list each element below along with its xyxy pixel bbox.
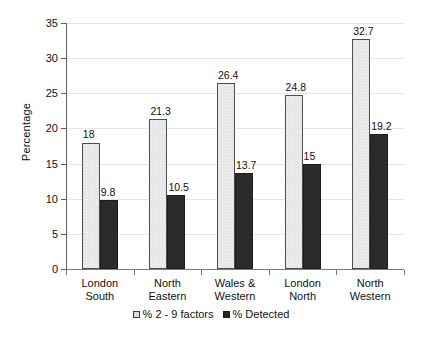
bar-value-label: 24.8 [286,82,306,93]
bar-value-label: 19.2 [371,121,391,132]
y-axis-tick-label: 15 [46,158,58,169]
plot-area: 05101520253035 189.821.310.526.413.724.8… [66,23,404,269]
x-axis-tick-mark [404,270,405,275]
bar [167,195,185,269]
y-axis-tick-mark [61,128,66,129]
bar-value-label: 32.7 [353,26,373,37]
bar-value-label: 26.4 [218,70,238,81]
y-axis-tick-mark [61,164,66,165]
bar-value-label: 13.7 [236,160,256,171]
y-axis-title: Percentage [20,62,32,202]
y-axis-tick-label: 5 [52,228,58,239]
x-axis-category-label: NorthEastern [134,277,202,303]
gridline [67,23,404,24]
x-axis-tick-mark [269,270,270,275]
x-axis-category-label: LondonSouth [66,277,134,303]
y-axis-tick-label: 10 [46,193,58,204]
bar-chart: Percentage 05101520253035 189.821.310.52… [0,0,422,340]
legend-label: % 2 - 9 factors [143,308,214,320]
category-label-line: Western [336,290,404,303]
bar [303,164,321,269]
x-axis-tick-mark [66,270,67,275]
category-label-line: North [134,277,202,290]
bar [100,200,118,269]
category-label-line: North [336,277,404,290]
category-label-line: Wales & [201,277,269,290]
bar [370,134,388,269]
category-label-line: North [269,290,337,303]
y-axis-tick-mark [61,199,66,200]
bar [235,173,253,269]
bar [352,39,370,269]
x-axis-category-label: LondonNorth [269,277,337,303]
y-axis-tick-label: 25 [46,88,58,99]
legend-entry: % 2 - 9 factors [133,308,214,320]
y-axis-tick-label: 20 [46,123,58,134]
y-axis-tick-label: 35 [46,18,58,29]
category-label-line: Eastern [134,290,202,303]
bar-value-label: 15 [304,151,316,162]
y-axis-line [66,23,67,269]
legend-swatch-light [133,311,140,318]
chart-legend: % 2 - 9 factors% Detected [0,308,422,320]
bar-value-label: 9.8 [101,187,116,198]
legend-entry: % Detected [223,308,290,320]
y-axis-tick-label: 0 [52,264,58,275]
y-axis-tick-mark [61,23,66,24]
legend-label: % Detected [233,308,290,320]
x-axis-line [66,269,404,270]
x-axis-tick-mark [134,270,135,275]
bar-value-label: 18 [83,129,95,140]
category-label-line: Western [201,290,269,303]
category-label-line: London [66,277,134,290]
x-axis-tick-mark [336,270,337,275]
category-label-line: London [269,277,337,290]
bar [217,83,235,269]
bar-value-label: 21.3 [150,106,170,117]
category-label-line: South [66,290,134,303]
x-axis-category-label: NorthWestern [336,277,404,303]
bar [149,119,167,269]
legend-swatch-dark [223,311,230,318]
y-axis-tick-mark [61,93,66,94]
x-axis-tick-mark [201,270,202,275]
bar-value-label: 10.5 [168,182,188,193]
bar [82,143,100,270]
bar [285,95,303,269]
y-axis-tick-mark [61,58,66,59]
y-axis-tick-label: 30 [46,53,58,64]
y-axis-tick-mark [61,234,66,235]
x-axis-category-label: Wales &Western [201,277,269,303]
